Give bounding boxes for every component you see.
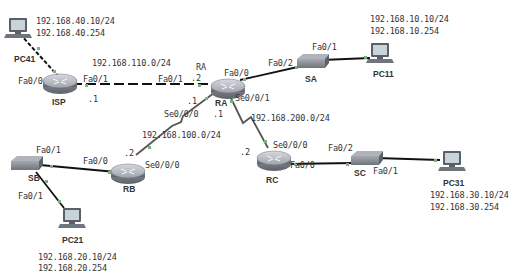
- pc31-label[interactable]: PC31: [443, 178, 464, 188]
- sc-fa01-label: Fa0/1: [373, 166, 398, 176]
- sb-fa01-bottom-label: Fa0/1: [18, 191, 43, 201]
- isp-ra-network-label: 192.168.110.0/24: [92, 58, 171, 68]
- sb-fa01-top-label: Fa0/1: [36, 145, 61, 155]
- rc-label[interactable]: RC: [266, 175, 278, 185]
- pc21-ip: 192.168.20.10/24: [38, 252, 117, 262]
- network-topology-diagram: 192.168.40.10/24 192.168.40.254 PC41 Fa0…: [0, 0, 530, 274]
- pc41-label[interactable]: PC41: [14, 54, 35, 64]
- ra-host-isp-label: .2: [191, 73, 201, 83]
- ra-fa00-label: Fa0/0: [224, 68, 249, 78]
- rb-label[interactable]: RB: [123, 184, 135, 194]
- sb-switch-icon: [11, 156, 43, 170]
- pc41-ip: 192.168.40.10/24: [36, 16, 115, 26]
- pc31-icon: [438, 151, 466, 171]
- ra-se001-label: Se0/0/1: [235, 93, 269, 103]
- pc31-gateway: 192.168.30.254: [430, 202, 499, 212]
- rc-router-icon: [257, 151, 291, 171]
- rb-router-icon: [111, 164, 145, 184]
- links-layer: [0, 0, 530, 274]
- sc-fa02-label: Fa0/2: [328, 143, 353, 153]
- ra-rb-network-label: 192.168.100.0/24: [142, 130, 221, 140]
- link-ra-rb-serial: [136, 93, 214, 155]
- rb-fa00-label: Fa0/0: [83, 156, 108, 166]
- sa-switch-icon: [297, 54, 329, 68]
- ra-fa01-label: Fa0/1: [158, 74, 183, 84]
- ra-rc-network-label: 192.168.200.0/24: [251, 113, 330, 123]
- pc21-gateway: 192.168.20.254: [38, 263, 107, 273]
- rc-host-label: .2: [240, 147, 250, 157]
- sc-label[interactable]: SC: [354, 168, 366, 178]
- isp-router-icon: [43, 74, 77, 94]
- ra-host-rb-label: .1: [187, 96, 197, 106]
- pc41-icon: [4, 18, 32, 38]
- link-sa-pc11: [322, 58, 370, 60]
- rb-host-label: .2: [124, 148, 134, 158]
- pc21-label[interactable]: PC21: [62, 235, 83, 245]
- sa-label[interactable]: SA: [305, 74, 317, 84]
- ra-label[interactable]: RA: [215, 98, 227, 108]
- pc11-ip: 192.168.10.10/24: [370, 14, 449, 24]
- pc41-gateway: 192.168.40.254: [36, 28, 105, 38]
- sa-fa01-label: Fa0/1: [312, 42, 337, 52]
- link-ra-sa: [240, 66, 302, 80]
- pc21-icon: [58, 208, 86, 228]
- ra-top-label: RA: [196, 62, 206, 72]
- pc11-label[interactable]: PC11: [373, 69, 394, 79]
- sa-fa02-label: Fa0/2: [268, 58, 293, 68]
- isp-host-label: .1: [88, 94, 98, 104]
- rb-se000-label: Se0/0/0: [145, 160, 179, 170]
- pc31-ip: 192.168.30.10/24: [430, 190, 509, 200]
- pc11-gateway: 192.168.10.254: [370, 26, 439, 36]
- ra-se000-label: Se0/0/0: [164, 109, 198, 119]
- isp-fa00-label: Fa0/0: [18, 76, 43, 86]
- isp-label[interactable]: ISP: [52, 97, 66, 107]
- sb-label[interactable]: SB: [28, 173, 40, 183]
- sc-switch-icon: [351, 151, 383, 165]
- link-sc-pc31: [376, 158, 440, 160]
- isp-fa01-label: Fa0/1: [83, 74, 108, 84]
- rc-se000-label: Se0/0/0: [273, 140, 307, 150]
- pc11-icon: [366, 43, 394, 63]
- ra-host-rc-label: .1: [213, 109, 223, 119]
- rc-fa00-label: Fa0/0: [290, 160, 315, 170]
